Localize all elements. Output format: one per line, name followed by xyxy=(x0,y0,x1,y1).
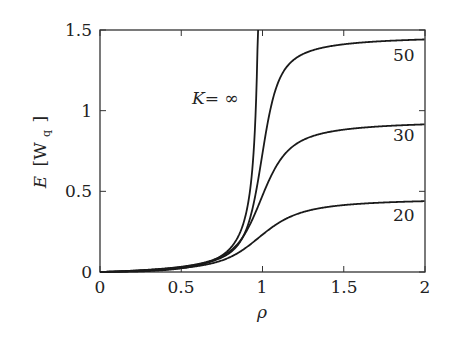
annotation-k50: 50 xyxy=(393,45,415,65)
y-tick-0-5: 0.5 xyxy=(65,181,92,201)
y-axis-label: E [W q ] xyxy=(30,116,54,189)
x-axis-label: ρ xyxy=(256,302,267,322)
curve-k-30 xyxy=(100,124,424,272)
annotation-k-infinity: K= ∞ xyxy=(191,88,239,108)
x-tick-0-5: 0.5 xyxy=(167,277,194,297)
curve-k-20 xyxy=(100,201,424,272)
y-tick-1-5: 1.5 xyxy=(65,20,92,40)
y-tick-labels: 0 0.5 1 1.5 xyxy=(65,20,92,282)
annotation-k20: 20 xyxy=(393,205,415,225)
svg-text:E [W q ]: E [W q ] xyxy=(30,116,54,189)
chart: 0 0.5 1 1.5 2 0 0.5 1 1.5 ρ E [W q ] K= … xyxy=(0,0,454,337)
y-label-e: E xyxy=(30,175,50,189)
y-label-close: ] xyxy=(30,116,50,123)
y-tick-1: 1 xyxy=(81,101,92,121)
y-tick-0: 0 xyxy=(81,262,92,282)
x-tick-2: 2 xyxy=(420,277,431,297)
x-tick-1: 1 xyxy=(257,277,268,297)
annotation-k30: 30 xyxy=(393,125,415,145)
x-tick-1-5: 1.5 xyxy=(330,277,357,297)
curves xyxy=(100,30,424,272)
y-label-q: q xyxy=(40,130,53,137)
plot-area xyxy=(100,30,425,272)
x-tick-0: 0 xyxy=(95,277,106,297)
y-label-w: [W xyxy=(30,142,50,167)
x-tick-labels: 0 0.5 1 1.5 2 xyxy=(95,277,431,297)
curve-k-50 xyxy=(100,39,424,272)
curve-k- xyxy=(100,30,258,272)
